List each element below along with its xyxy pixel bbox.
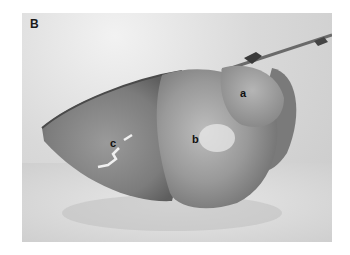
- panel-label: B: [30, 17, 39, 31]
- label-a: a: [240, 87, 246, 99]
- liver-illustration: [22, 13, 332, 242]
- specimen-photo: B a b c: [22, 13, 332, 242]
- label-c: c: [110, 137, 116, 149]
- label-b: b: [192, 133, 199, 145]
